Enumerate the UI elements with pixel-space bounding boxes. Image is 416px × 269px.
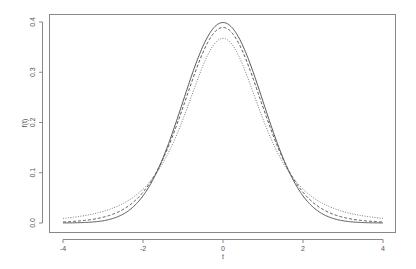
x-tick-label: 2 xyxy=(301,245,305,252)
y-axis-title: f(t) xyxy=(21,119,29,128)
x-tick-label: -2 xyxy=(140,245,146,252)
series-line-dashed xyxy=(63,27,383,222)
y-tick-label: 0.4 xyxy=(29,17,36,27)
density-chart: -4-2024 0.00.10.20.30.4 t f(t) xyxy=(0,0,416,269)
x-tick-label: 0 xyxy=(221,245,225,252)
y-tick-label: 0.2 xyxy=(29,118,36,128)
y-tick-label: 0.0 xyxy=(29,218,36,228)
series-line-solid xyxy=(63,23,383,223)
x-tick-label: -4 xyxy=(60,245,66,252)
plot-frame xyxy=(50,15,396,233)
y-axis: 0.00.10.20.30.4 xyxy=(29,17,43,228)
x-axis-title: t xyxy=(222,253,224,260)
density-curves xyxy=(63,23,383,223)
x-tick-label: 4 xyxy=(381,245,385,252)
y-tick-label: 0.3 xyxy=(29,67,36,77)
series-line-dotted xyxy=(63,38,383,218)
y-tick-label: 0.1 xyxy=(29,168,36,178)
x-axis: -4-2024 xyxy=(60,240,385,253)
